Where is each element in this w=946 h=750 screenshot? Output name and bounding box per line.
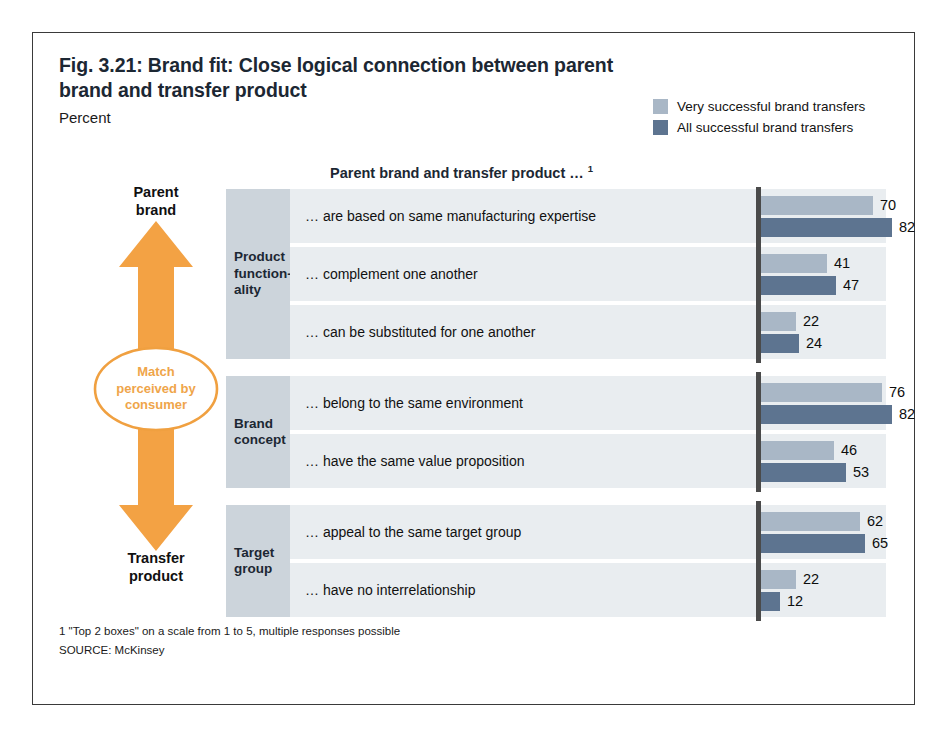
bar-pair-very-successful: 76 (761, 383, 946, 402)
bar-very-successful (761, 441, 834, 460)
category-label-line3: ality (234, 282, 261, 297)
bar-very-successful (761, 570, 796, 589)
row-label: … have the same value proposition (290, 453, 524, 469)
group-rows: … are based on same manufacturing expert… (290, 189, 886, 359)
bar-pair-all-successful: 12 (761, 592, 946, 611)
legend-item-all-successful: All successful brand transfers (653, 120, 865, 135)
baseline-axis (756, 372, 761, 492)
bar-pair-very-successful: 41 (761, 254, 946, 273)
group-rows: … appeal to the same target group 62 65 (290, 505, 886, 617)
category-label: Product function- ality (234, 249, 292, 299)
baseline-axis (756, 187, 761, 363)
figure-title: Fig. 3.21: Brand fit: Close logical conn… (59, 53, 659, 103)
row-label: … are based on same manufacturing expert… (290, 208, 596, 224)
bar-very-successful (761, 512, 860, 531)
footnotes: 1 "Top 2 boxes" on a scale from 1 to 5, … (59, 625, 400, 663)
bar-value-very-successful: 22 (803, 571, 819, 587)
bar-pair-all-successful: 53 (761, 463, 946, 482)
chart-group: Target group … appeal to the same target… (226, 505, 886, 617)
row-bars: 62 65 (761, 505, 946, 559)
match-oval-text: Match perceived by consumer (93, 346, 219, 432)
bar-pair-all-successful: 82 (761, 218, 946, 237)
footnote-1: 1 "Top 2 boxes" on a scale from 1 to 5, … (59, 625, 400, 637)
table-row: … have no interrelationship 22 12 (290, 563, 886, 617)
bar-value-all-successful: 82 (899, 406, 915, 422)
figure-frame: Fig. 3.21: Brand fit: Close logical conn… (32, 32, 915, 705)
chart-body: Product function- ality … are based on s… (226, 189, 886, 634)
bar-value-all-successful: 65 (872, 535, 888, 551)
column-header-text: Parent brand and transfer product … (330, 165, 584, 181)
bar-value-very-successful: 41 (834, 255, 850, 271)
bar-pair-very-successful: 62 (761, 512, 946, 531)
legend: Very successful brand transfers All succ… (653, 99, 865, 141)
bar-very-successful (761, 196, 873, 215)
parent-brand-label-line2: brand (136, 202, 176, 218)
bar-pair-very-successful: 22 (761, 570, 946, 589)
category-block: Brand concept (226, 376, 290, 488)
bar-all-successful (761, 463, 846, 482)
row-label: … belong to the same environment (290, 395, 523, 411)
bar-pair-all-successful: 24 (761, 334, 946, 353)
row-bars: 76 82 (761, 376, 946, 430)
row-bars: 70 82 (761, 189, 946, 243)
category-label-line1: Brand (234, 416, 273, 431)
bar-all-successful (761, 534, 865, 553)
category-block: Product function- ality (226, 189, 290, 359)
chart-group: Brand concept … belong to the same envir… (226, 376, 886, 488)
transfer-product-label: Transfer product (81, 549, 231, 585)
row-bars: 41 47 (761, 247, 946, 301)
legend-item-very-successful: Very successful brand transfers (653, 99, 865, 114)
table-row: … appeal to the same target group 62 65 (290, 505, 886, 559)
category-label-line2: function- (234, 266, 292, 281)
source-line: SOURCE: McKinsey (59, 644, 400, 656)
chart-group: Product function- ality … are based on s… (226, 189, 886, 359)
bar-value-very-successful: 22 (803, 313, 819, 329)
bar-value-all-successful: 12 (787, 593, 803, 609)
bar-all-successful (761, 592, 780, 611)
bar-value-very-successful: 62 (867, 513, 883, 529)
category-label-line1: Product (234, 249, 285, 264)
figure-subtitle: Percent (59, 109, 111, 126)
group-rows: … belong to the same environment 76 82 (290, 376, 886, 488)
row-bars: 22 12 (761, 563, 946, 617)
row-label: … appeal to the same target group (290, 524, 521, 540)
baseline-axis (756, 501, 761, 621)
bar-pair-very-successful: 22 (761, 312, 946, 331)
transfer-product-label-line2: product (129, 568, 183, 584)
bar-value-all-successful: 47 (843, 277, 859, 293)
category-label-line2: group (234, 561, 272, 576)
bar-all-successful (761, 334, 799, 353)
category-label-line2: concept (234, 432, 286, 447)
bar-all-successful (761, 218, 892, 237)
row-label: … can be substituted for one another (290, 324, 535, 340)
bar-value-all-successful: 24 (806, 335, 822, 351)
legend-swatch-very-successful (653, 99, 668, 114)
table-row: … belong to the same environment 76 82 (290, 376, 886, 430)
bar-all-successful (761, 276, 836, 295)
bar-value-very-successful: 76 (889, 384, 905, 400)
bar-pair-all-successful: 47 (761, 276, 946, 295)
bar-very-successful (761, 383, 882, 402)
category-block: Target group (226, 505, 290, 617)
bar-value-very-successful: 70 (880, 197, 896, 213)
bar-value-all-successful: 53 (853, 464, 869, 480)
legend-label-very-successful: Very successful brand transfers (677, 99, 865, 114)
bar-value-all-successful: 82 (899, 219, 915, 235)
match-oval-line3: consumer (125, 397, 187, 414)
match-oval-line2: perceived by (116, 381, 196, 398)
bar-pair-all-successful: 65 (761, 534, 946, 553)
bar-very-successful (761, 312, 796, 331)
category-label: Target group (234, 545, 274, 578)
bar-pair-very-successful: 46 (761, 441, 946, 460)
bar-all-successful (761, 405, 892, 424)
parent-brand-label-line1: Parent (133, 184, 178, 200)
column-header-footnote-marker: 1 (588, 163, 593, 174)
row-label: … have no interrelationship (290, 582, 475, 598)
category-label: Brand concept (234, 416, 286, 449)
transfer-product-label-line1: Transfer (127, 550, 184, 566)
row-bars: 46 53 (761, 434, 946, 488)
legend-swatch-all-successful (653, 120, 668, 135)
table-row: … can be substituted for one another 22 … (290, 305, 886, 359)
table-row: … complement one another 41 47 (290, 247, 886, 301)
column-header: Parent brand and transfer product …1 (330, 163, 593, 181)
